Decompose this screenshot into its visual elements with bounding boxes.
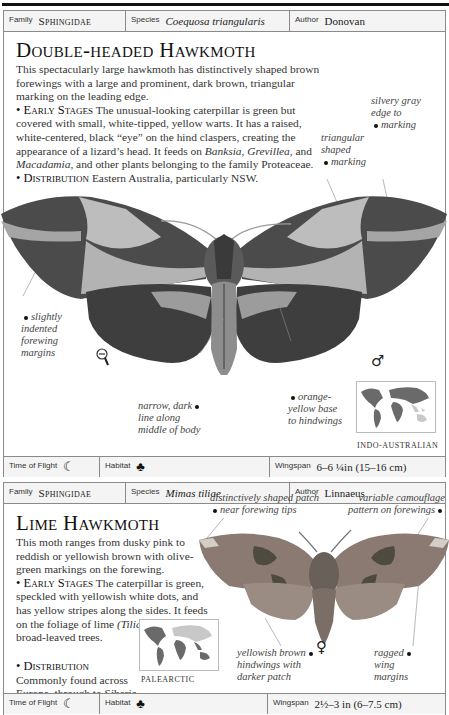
species-label: Species (131, 487, 159, 496)
time-of-flight-label: Time of Flight (9, 461, 57, 470)
wingspan-cell: Wingspan 6–6 ¼in (15–16 cm) (270, 457, 445, 477)
family-cell: Family Sphingidae (4, 11, 126, 31)
lime-hawkmoth-illustration (199, 518, 449, 648)
species-entry-double-headed-hawkmoth: Family Sphingidae Species Coequosa trian… (3, 10, 446, 477)
early-stages-heading: • Early Stages (16, 576, 93, 590)
habitat-label: Habitat (105, 461, 130, 470)
habitat-label: Habitat (105, 698, 130, 707)
species-description: This spectacularly large hawkmoth has di… (16, 63, 326, 185)
wingspan-value: 2½–3 in (6–7.5 cm) (315, 698, 402, 710)
annotation-orange-base: orange-yellow baseto hindwings (288, 391, 358, 427)
entry-footer: Time of Flight ☾ Habitat ♣ Wingspan 2½–3… (4, 693, 445, 714)
plant-name: Banksia (205, 145, 242, 157)
tree-icon: ♣ (136, 459, 145, 475)
family-label: Family (9, 487, 33, 496)
early-stages-heading: • Early Stages (16, 103, 93, 117)
annotation-ragged-margins: raggedwingmargins (374, 647, 434, 683)
distribution-map (356, 381, 436, 433)
annotation-silvery-edge: silvery grayedge tomarking (371, 95, 441, 131)
plant-name: Macadamia (16, 158, 70, 170)
annotation-narrow-line: narrow, darkline alongmiddle of body (138, 400, 218, 436)
species-title: Lime Hawkmoth (16, 511, 159, 536)
moon-icon: ☾ (63, 696, 75, 712)
map-region-caption: INDO-AUSTRALIAN (357, 441, 438, 450)
species-label: Species (131, 15, 159, 24)
tree-icon: ♣ (136, 696, 145, 712)
wingspan-label: Wingspan (273, 698, 309, 707)
author-label: Author (295, 15, 319, 24)
time-of-flight-label: Time of Flight (9, 698, 57, 707)
intro-text: This moth ranges from dusky pink to redd… (16, 536, 193, 575)
annotation-indented-margins: slightlyindentedforewingmargins (21, 311, 81, 359)
male-symbol-icon: ♂ (371, 352, 384, 370)
annotation-forewing-patch: distinctively shaped patchnear forewing … (210, 492, 340, 516)
time-of-flight-cell: Time of Flight ☾ (4, 457, 100, 477)
map-region-caption: PALEARCTIC (141, 675, 195, 684)
magnifier-minus-icon (96, 348, 110, 372)
world-map-icon (357, 382, 435, 432)
wingspan-value: 6–6 ¼in (15–16 cm) (317, 461, 407, 473)
habitat-cell: Habitat ♣ (100, 694, 268, 714)
habitat-cell: Habitat ♣ (100, 457, 270, 477)
entry-footer: Time of Flight ☾ Habitat ♣ Wingspan 6–6 … (4, 456, 445, 477)
intro-text: This spectacularly large hawkmoth has di… (16, 63, 319, 102)
family-value: Sphingidae (39, 487, 92, 499)
distribution-heading: • Distribution (16, 659, 89, 673)
annotation-yellowish-hindwings: yellowish brownhindwings withdarker patc… (237, 647, 322, 683)
plant-name: Grevillea (247, 145, 290, 157)
family-label: Family (9, 15, 33, 24)
species-entry-lime-hawkmoth: Family Sphingidae Species Mimas tiliae A… (3, 482, 446, 715)
annotation-triangular-marking: triangularshapedmarking (321, 132, 381, 168)
wingspan-label: Wingspan (275, 461, 311, 470)
top-rule (2, 3, 449, 6)
author-cell: Author Donovan (290, 11, 445, 31)
time-of-flight-cell: Time of Flight ☾ (4, 694, 100, 714)
species-value: Coequosa triangularis (165, 15, 264, 27)
wingspan-cell: Wingspan 2½–3 in (6–7.5 cm) (268, 694, 445, 714)
species-title: Double-headed Hawkmoth (16, 38, 256, 63)
annotation-camouflage: variable camouflagepattern on forewings (330, 492, 445, 516)
author-value: Donovan (325, 15, 365, 27)
family-value: Sphingidae (39, 15, 92, 27)
entry-header: Family Sphingidae Species Coequosa trian… (4, 11, 445, 32)
species-cell: Species Coequosa triangularis (126, 11, 290, 31)
family-cell: Family Sphingidae (4, 483, 126, 503)
moon-icon: ☾ (63, 459, 75, 475)
